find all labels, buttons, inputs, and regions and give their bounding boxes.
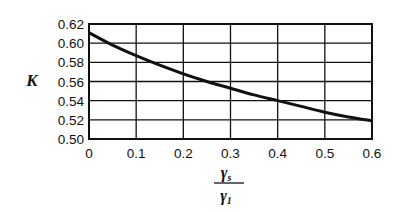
y-tick-label: 0.58 (58, 55, 84, 70)
grid (89, 24, 372, 139)
x-tick-label: 0.6 (363, 146, 382, 161)
y-tick-label: 0.50 (58, 132, 84, 147)
y-tick-label: 0.62 (58, 17, 84, 32)
x-label-numerator: γs (221, 164, 232, 183)
x-label-denominator: γ1 (220, 187, 232, 206)
x-tick-label: 0 (85, 146, 93, 161)
x-tick-label: 0.3 (221, 146, 240, 161)
y-tick-label: 0.60 (58, 36, 84, 51)
y-tick-label: 0.52 (58, 113, 84, 128)
chart: 0.500.520.540.560.580.600.62 00.10.20.30… (0, 0, 400, 212)
x-axis-ticks: 00.10.20.30.40.50.6 (85, 146, 381, 161)
x-tick-label: 0.2 (174, 146, 193, 161)
y-tick-label: 0.56 (58, 75, 84, 90)
y-axis-ticks: 0.500.520.540.560.580.600.62 (58, 17, 85, 147)
y-tick-label: 0.54 (58, 94, 85, 109)
x-axis-label: γs γ1 (214, 164, 244, 206)
x-tick-label: 0.5 (315, 146, 334, 161)
x-tick-label: 0.4 (268, 146, 287, 161)
y-axis-label: K (25, 71, 39, 90)
x-tick-label: 0.1 (127, 146, 146, 161)
